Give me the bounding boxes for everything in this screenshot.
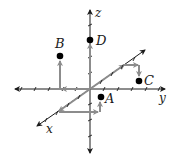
coordinate-diagram: B D C A z y x xyxy=(0,0,174,164)
axis-label-y: y xyxy=(158,91,166,105)
label-B: B xyxy=(54,36,65,51)
label-D: D xyxy=(95,33,107,48)
label-C: C xyxy=(144,73,154,88)
point-A xyxy=(98,94,105,101)
axis-label-x: x xyxy=(46,122,53,136)
path-to-A xyxy=(59,89,100,112)
path-to-B xyxy=(60,61,90,89)
point-D xyxy=(87,37,94,44)
path-to-C xyxy=(90,65,139,89)
label-A: A xyxy=(104,91,114,106)
point-B xyxy=(57,53,64,60)
axis-label-z: z xyxy=(94,6,102,20)
point-C xyxy=(136,78,143,85)
